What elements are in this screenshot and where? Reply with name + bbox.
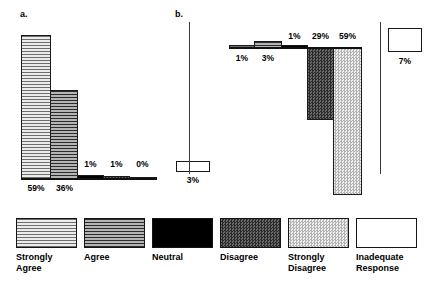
panel-a-label-neutral: 1% [76,160,105,169]
panel-b-inadequate-label: 7% [388,57,422,66]
panel-a-label-disagree: 1% [102,160,131,169]
panel-a-label-agree: 36% [50,184,79,193]
legend-label-neutral: Neutral [152,252,213,263]
figure-canvas: a. 1% 1% 0% 59% 36% 3% b. 1% 3% 1% 29% 5… [0,0,433,300]
legend-item-inadequate-response: Inadequate Response [356,218,417,273]
legend-swatch-strongly-disagree [288,218,349,248]
panel-b-label-neutral: 1% [281,32,308,41]
panel-b-bar-disagree [307,48,334,120]
panel-a-baseline [21,178,157,180]
legend-label-disagree: Disagree [220,252,281,263]
panel-b-bar-strongly-disagree [333,48,362,195]
panel-a-inadequate-box [176,161,210,172]
panel-a-inadequate-label: 3% [176,176,210,185]
panel-b-baseline [229,47,362,49]
panel-b-label-strongly-disagree: 59% [333,32,362,41]
panel-a-label-strongly-agree: 59% [21,184,51,193]
panel-b-label-strongly-agree: 1% [228,54,256,63]
legend-swatch-strongly-agree [16,218,77,248]
legend-item-neutral: Neutral [152,218,213,263]
legend-label-strongly-agree: Strongly Agree [16,252,77,273]
panel-divider-right [380,22,381,174]
panel-divider-left [189,22,190,174]
legend-item-strongly-disagree: Strongly Disagree [288,218,349,273]
panel-b-label-agree: 3% [254,54,282,63]
panel-a-label-strongly-disagree: 0% [128,160,157,169]
legend-swatch-inadequate-response [356,218,417,248]
legend-item-agree: Agree [84,218,145,263]
legend-label-strongly-disagree: Strongly Disagree [288,252,349,273]
legend-swatch-neutral [152,218,213,248]
legend-item-disagree: Disagree [220,218,281,263]
panel-a-letter: a. [20,10,28,19]
panel-a-bar-agree [50,90,78,179]
panel-b-letter: b. [175,10,183,19]
panel-a-bar-strongly-agree [21,35,51,179]
legend-item-strongly-agree: Strongly Agree [16,218,77,273]
legend-swatch-disagree [220,218,281,248]
legend-label-agree: Agree [84,252,145,263]
panel-b-inadequate-box [388,28,422,52]
panel-b-label-disagree: 29% [306,32,335,41]
legend-label-inadequate-response: Inadequate Response [356,252,417,273]
legend-swatch-agree [84,218,145,248]
